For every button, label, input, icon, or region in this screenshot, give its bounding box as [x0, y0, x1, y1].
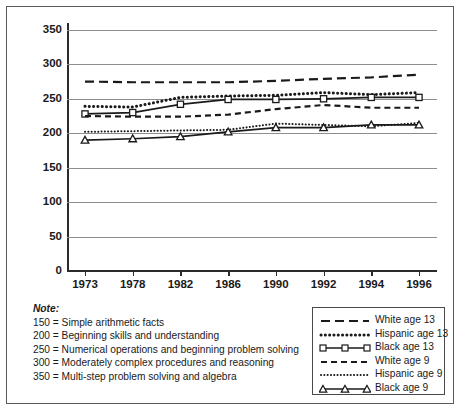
note-heading: Note:	[33, 303, 313, 314]
chart-figure-frame: 050100150200250300350 197319781982198619…	[6, 6, 454, 404]
legend-item: Hispanic age 13	[319, 327, 444, 341]
legend-item: Black age 9	[319, 381, 444, 395]
series-line	[85, 75, 419, 83]
legend-key-icon	[319, 340, 371, 353]
legend-item: White age 13	[319, 313, 444, 327]
series-marker	[225, 96, 231, 102]
series-marker	[320, 96, 326, 102]
legend-item: Hispanic age 9	[319, 367, 444, 381]
legend-item: White age 9	[319, 354, 444, 368]
series-marker	[177, 101, 183, 107]
note-line: 200 = Beginning skills and understanding	[33, 329, 313, 342]
legend-key-icon	[319, 381, 371, 394]
legend-label: Black age 9	[375, 382, 428, 393]
series-lines	[31, 23, 437, 285]
note-line: 350 = Multi-step problem solving and alg…	[33, 370, 313, 383]
legend-item: Black age 13	[319, 340, 444, 354]
legend-key-icon	[319, 313, 371, 326]
note-line: 150 = Simple arithmetic facts	[33, 316, 313, 329]
note-line: 300 = Moderately complex procedures and …	[33, 356, 313, 369]
series-marker	[416, 94, 422, 100]
note-line: 250 = Numerical operations and beginning…	[33, 343, 313, 356]
legend-key-icon	[319, 327, 371, 340]
legend-label: Hispanic age 9	[375, 368, 442, 379]
legend-label: White age 9	[375, 355, 429, 366]
legend-key-icon	[319, 367, 371, 380]
legend-label: Black age 13	[375, 341, 434, 352]
legend-label: White age 13	[375, 314, 435, 325]
legend-label: Hispanic age 13	[375, 328, 448, 339]
series-marker	[368, 94, 374, 100]
series-marker	[130, 109, 136, 115]
plot-area: 050100150200250300350 197319781982198619…	[31, 23, 437, 285]
series-marker	[273, 96, 279, 102]
chart-legend: White age 13Hispanic age 13Black age 13W…	[312, 307, 445, 395]
legend-key-icon	[319, 354, 371, 367]
note-lines: 150 = Simple arithmetic facts200 = Begin…	[33, 316, 313, 383]
note-block: Note: 150 = Simple arithmetic facts200 =…	[33, 303, 313, 383]
